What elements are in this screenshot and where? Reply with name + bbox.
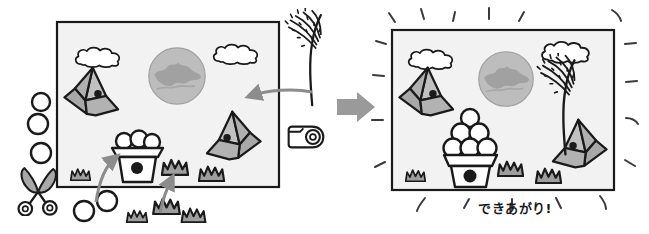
loose-circle-2 (28, 114, 48, 134)
right-moon (479, 52, 534, 107)
tape-dispenser-icon (289, 127, 324, 148)
left-moon (149, 48, 205, 104)
loose-grass-3 (182, 209, 206, 223)
right-panel-group (372, 8, 638, 211)
illustration-stage: できあがり! (0, 0, 649, 234)
loose-circle-1 (32, 93, 50, 111)
loose-circle-4 (97, 191, 117, 211)
finished-caption: できあがり! (430, 198, 600, 217)
loose-grass-1 (127, 210, 148, 222)
loose-grass-2 (153, 199, 180, 214)
loose-circle-3 (31, 143, 51, 163)
scissors-icon (19, 168, 57, 215)
loose-circle-5 (74, 201, 94, 221)
left-panel-group (19, 8, 324, 222)
step-arrow (337, 92, 375, 122)
